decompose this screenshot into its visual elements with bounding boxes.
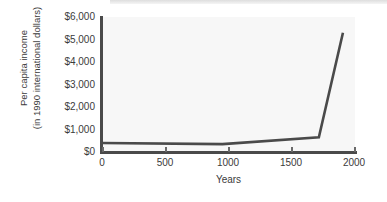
x-tick-mark-0: [102, 147, 104, 152]
y-tick-label-2000: $2,000: [25, 101, 95, 112]
x-tick-label-1000: 1000: [198, 157, 258, 168]
y-axis-line: [100, 16, 103, 153]
x-tick-label-0: 0: [72, 157, 132, 168]
x-tick-mark-1000: [228, 147, 230, 152]
x-tick-mark-2000: [354, 147, 356, 152]
x-tick-mark-1500: [291, 147, 293, 152]
y-tick-label-0: $0: [25, 146, 95, 157]
y-tick-label-4000: $4,000: [25, 56, 95, 67]
chart-figure: Per capita income (in 1990 international…: [0, 0, 387, 202]
x-axis-title: Years: [102, 174, 355, 185]
x-tick-label-1500: 1500: [261, 157, 321, 168]
x-tick-label-500: 500: [135, 157, 195, 168]
y-tick-label-1000: $1,000: [25, 124, 95, 135]
y-tick-label-6000: $6,000: [25, 11, 95, 22]
plot-area: [102, 17, 355, 152]
top-scan-band: [110, 0, 387, 4]
x-tick-mark-500: [165, 147, 167, 152]
y-tick-label-5000: $5,000: [25, 34, 95, 45]
x-tick-label-2000: 2000: [324, 157, 384, 168]
y-tick-label-3000: $3,000: [25, 79, 95, 90]
